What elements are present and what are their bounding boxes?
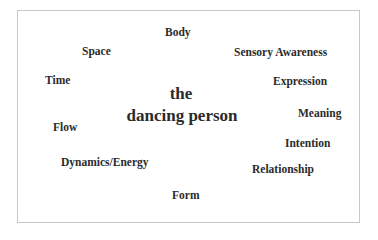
term-flow: Flow: [53, 122, 77, 134]
center-title-line1: the: [130, 85, 232, 102]
term-sensory-awareness: Sensory Awareness: [234, 47, 327, 59]
center-title-line2: dancing person: [120, 107, 244, 124]
term-meaning: Meaning: [298, 108, 341, 120]
term-form: Form: [172, 190, 199, 202]
term-body: Body: [165, 27, 191, 39]
term-expression: Expression: [273, 76, 327, 88]
term-time: Time: [45, 75, 70, 87]
term-dynamics-energy: Dynamics/Energy: [61, 157, 149, 169]
term-space: Space: [82, 46, 111, 58]
term-relationship: Relationship: [252, 164, 314, 176]
term-intention: Intention: [285, 138, 330, 150]
